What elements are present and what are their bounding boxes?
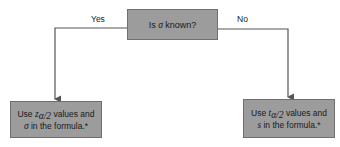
decision-box-sigma-known: Is σ known? [127,9,218,40]
outcome-text-z: Use zα/2 values and σ in the formula.* [17,109,94,131]
outcome-box-use-t: Use tα/2 values and s in the formula.* [243,99,335,138]
yes-label: Yes [91,14,105,24]
no-label: No [237,14,248,24]
outcome-text-t: Use tα/2 values and s in the formula.* [251,108,327,130]
yes-connector [55,28,127,99]
decision-text: Is σ known? [149,20,197,30]
no-connector [218,29,288,97]
outcome-box-use-z: Use zα/2 values and σ in the formula.* [10,101,102,138]
